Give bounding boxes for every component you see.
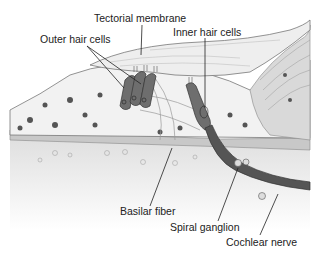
label-inner-hair-cells: Inner hair cells bbox=[173, 27, 241, 38]
label-spiral-ganglion: Spiral ganglion bbox=[170, 222, 239, 233]
label-basilar-fiber: Basilar fiber bbox=[120, 206, 175, 217]
label-outer-hair-cells: Outer hair cells bbox=[40, 34, 111, 45]
label-tectorial-membrane: Tectorial membrane bbox=[94, 13, 186, 24]
label-cochlear-nerve: Cochlear nerve bbox=[226, 237, 297, 248]
